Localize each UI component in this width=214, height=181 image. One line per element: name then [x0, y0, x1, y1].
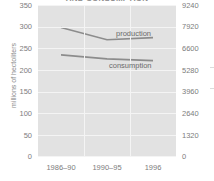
series-label-consumption: consumption: [109, 62, 152, 70]
gridline-horizontal: [38, 70, 176, 71]
gridline-vertical: [130, 5, 131, 157]
ytick-right: 9240: [182, 2, 212, 9]
ytick-right: 1320: [182, 132, 212, 139]
ytick-right: 2640: [182, 110, 212, 117]
gridline-vertical: [84, 5, 85, 157]
gridline-horizontal: [38, 156, 176, 157]
ytick-right: 3960: [182, 88, 212, 95]
ytick-left: 0: [6, 153, 32, 160]
ytick-right: 5280: [182, 67, 212, 74]
edge-tick-mark: [210, 88, 214, 89]
xtick-label: 1996: [125, 164, 181, 172]
line-consumption: [61, 55, 153, 61]
yaxis-title: millions of hectoliters: [10, 21, 17, 131]
edge-tick-mark: [210, 67, 214, 68]
gridline-horizontal: [38, 92, 176, 93]
chart-container: AND CONSUMPTION production consumption 3…: [0, 0, 214, 181]
gridline-horizontal: [38, 27, 176, 28]
series-label-production: production: [116, 30, 151, 38]
plot-area: [38, 5, 176, 157]
ytick-right: 0: [182, 153, 212, 160]
ytick-left: 50: [6, 132, 32, 139]
ytick-right: 7920: [182, 23, 212, 30]
gridline-horizontal: [38, 5, 176, 6]
gridline-horizontal: [38, 48, 176, 49]
ytick-right: 6600: [182, 45, 212, 52]
ytick-left: 350: [6, 2, 32, 9]
chart-title: AND CONSUMPTION: [38, 0, 176, 3]
gridline-horizontal: [38, 113, 176, 114]
gridline-horizontal: [38, 135, 176, 136]
